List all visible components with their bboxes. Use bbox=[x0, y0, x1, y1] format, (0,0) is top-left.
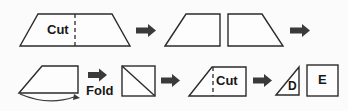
fold-arc bbox=[20, 94, 80, 101]
cut-fold-diagram: Cut Fold bbox=[0, 0, 348, 111]
piece-d-label: D bbox=[288, 79, 297, 93]
cut-label-bottom: Cut bbox=[216, 73, 238, 88]
piece-e-label: E bbox=[318, 72, 327, 87]
arrow-5 bbox=[253, 74, 272, 87]
arrow-2 bbox=[290, 24, 310, 37]
arrow-3 bbox=[88, 69, 107, 82]
parallelogram-piece bbox=[19, 66, 78, 93]
cut-label-top: Cut bbox=[47, 22, 69, 37]
fold-label: Fold bbox=[86, 83, 113, 98]
right-half-piece bbox=[228, 14, 283, 46]
arrow-4 bbox=[161, 74, 180, 87]
square-with-diagonal bbox=[122, 66, 155, 96]
arrow-1 bbox=[136, 24, 156, 37]
left-half-piece bbox=[165, 14, 220, 46]
